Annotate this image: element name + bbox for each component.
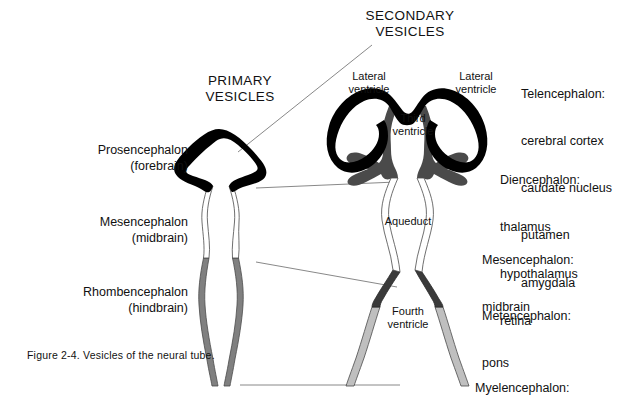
label-third-ventricle-line2: ventricle bbox=[393, 125, 434, 137]
label-lateral-ventricle-right: Lateralventricle bbox=[443, 70, 509, 96]
label-mesencephalon-secondary-name: Mesencephalon: bbox=[482, 253, 627, 269]
label-prosencephalon-name: Prosencephalon bbox=[98, 143, 188, 157]
label-third-ventricle: Thirdventricle bbox=[383, 112, 443, 138]
label-lateral-ventricle-right-line2: ventricle bbox=[456, 83, 497, 95]
connector-line-mesencephalon-bottom bbox=[256, 262, 397, 287]
secondary-myelencephalon-left-wall bbox=[346, 307, 380, 386]
primary-rhombencephalon-left-wall bbox=[199, 258, 218, 386]
label-mesencephalon-primary-name: Mesencephalon bbox=[100, 215, 188, 229]
label-aqueduct-line1: Aqueduct bbox=[385, 215, 431, 227]
primary-mesencephalon-right-wall bbox=[229, 185, 239, 258]
secondary-metencephalon-left-wall bbox=[372, 270, 400, 307]
label-diencephalon-name: Diencephalon: bbox=[500, 173, 627, 189]
label-myelencephalon-name: Myelencephalon: bbox=[475, 381, 627, 397]
label-rhombencephalon-common: (hindbrain) bbox=[128, 301, 188, 315]
label-rhombencephalon: Rhombencephalon(hindbrain) bbox=[0, 285, 188, 316]
label-mesencephalon-primary-common: (midbrain) bbox=[132, 231, 188, 245]
label-fourth-ventricle-line1: Fourth bbox=[392, 305, 424, 317]
label-fourth-ventricle: Fourthventricle bbox=[378, 305, 438, 331]
label-mesencephalon-primary: Mesencephalon(midbrain) bbox=[0, 215, 188, 246]
label-rhombencephalon-name: Rhombencephalon bbox=[83, 285, 188, 299]
heading-primary-vesicles: PRIMARY VESICLES bbox=[175, 73, 305, 105]
label-lateral-ventricle-right-line1: Lateral bbox=[459, 70, 493, 82]
label-prosencephalon-common: (forebrain) bbox=[130, 159, 188, 173]
secondary-myelencephalon-right-wall bbox=[435, 307, 469, 386]
label-aqueduct: Aqueduct bbox=[378, 215, 438, 228]
connector-line-mesencephalon-top bbox=[256, 182, 396, 188]
label-prosencephalon: Prosencephalon(forebrain) bbox=[0, 143, 188, 174]
primary-rhombencephalon-right-wall bbox=[224, 258, 243, 386]
figure-container: SECONDARY VESICLES PRIMARY VESICLES Pros… bbox=[0, 0, 627, 400]
primary-mesencephalon-left-wall bbox=[202, 185, 213, 258]
label-fourth-ventricle-line2: ventricle bbox=[388, 318, 429, 330]
label-lateral-ventricle-left-line2: ventricle bbox=[349, 83, 390, 95]
label-lateral-ventricle-left-line1: Lateral bbox=[352, 70, 386, 82]
label-third-ventricle-line1: Third bbox=[400, 112, 425, 124]
figure-caption: Figure 2-4. Vesicles of the neural tube. bbox=[27, 349, 215, 361]
label-lateral-ventricle-left: Lateralventricle bbox=[336, 70, 402, 96]
label-telencephalon-name: Telencephalon: bbox=[521, 87, 627, 103]
label-myelencephalon: Myelencephalon: medulla bbox=[475, 349, 627, 400]
secondary-metencephalon-right-wall bbox=[415, 270, 443, 307]
heading-secondary-vesicles: SECONDARY VESICLES bbox=[330, 8, 490, 40]
label-metencephalon-name: Metencephalon: bbox=[482, 309, 627, 325]
